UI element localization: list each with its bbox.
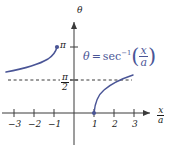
pi-half-denominator: 2 (61, 82, 69, 92)
equation-label: θ=sec−1(xa) (83, 45, 156, 68)
equation-close-paren: ) (148, 46, 156, 67)
curve-right-branch (94, 75, 133, 113)
y-tick-label-pi: π (60, 41, 66, 50)
x-tick-label-neg1: −1 (48, 120, 61, 129)
x-axis-arrowhead (143, 110, 150, 116)
y-axis-arrowhead (71, 22, 77, 29)
x-axis-numerator: x (157, 106, 164, 115)
equation-numerator: x (139, 45, 148, 56)
x-tick-label-neg3: −3 (8, 120, 21, 129)
endpoint-dot-right (92, 111, 96, 115)
y-axis-label-theta: θ (77, 6, 82, 15)
x-tick-label-3: 3 (132, 120, 138, 129)
x-tick-label-1: 1 (92, 120, 98, 129)
equation-sec: sec (103, 50, 121, 63)
endpoint-dot-left (55, 45, 59, 49)
pi-half-numerator: π (61, 73, 69, 82)
equation-exponent: −1 (121, 49, 131, 57)
equation-fraction: xa (139, 45, 148, 68)
graph-canvas (0, 0, 177, 153)
x-tick-label-2: 2 (112, 120, 118, 129)
equation-theta: θ (83, 50, 90, 63)
sec-inverse-graph-figure: θ π π 2 x a −3 −2 −1 1 2 3 θ=sec−1(xa) (0, 0, 177, 153)
equation-open-paren: ( (131, 46, 139, 67)
equation-equals: = (90, 50, 103, 63)
pi-half-fraction: π 2 (61, 73, 69, 92)
y-tick-label-pi-half: π 2 (60, 73, 70, 92)
equation-denominator: a (139, 56, 148, 68)
x-axis-denominator: a (157, 115, 164, 125)
x-axis-label: x a (157, 106, 164, 125)
curve-left-branch (6, 47, 57, 72)
x-over-a-fraction: x a (157, 106, 164, 125)
x-tick-label-neg2: −2 (28, 120, 41, 129)
